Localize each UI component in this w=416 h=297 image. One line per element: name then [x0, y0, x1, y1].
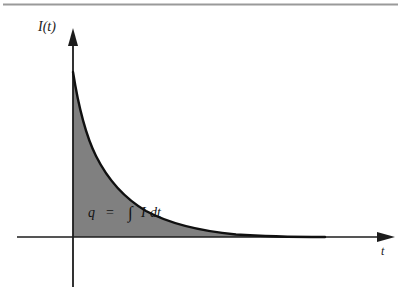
- formula-differential-dt: dt: [150, 205, 162, 220]
- formula-equals-sign: =: [106, 205, 114, 220]
- page-background: [0, 0, 416, 297]
- y-axis-label: I(t): [37, 19, 56, 35]
- current-time-integral-figure: I(t) t q = ∫ I dt: [0, 0, 416, 297]
- formula-symbol-q: q: [88, 205, 95, 220]
- figure-canvas: I(t) t q = ∫ I dt: [0, 0, 416, 297]
